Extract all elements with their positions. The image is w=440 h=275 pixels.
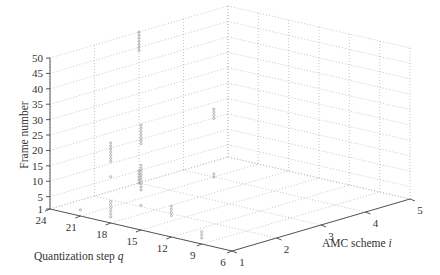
tick-label: 5: [417, 204, 423, 216]
data-point: [213, 117, 215, 119]
data-point: [110, 157, 112, 159]
data-point: [110, 160, 112, 162]
data-point: [213, 173, 215, 175]
data-point: [140, 124, 142, 126]
data-point: [213, 108, 215, 110]
data-point: [140, 189, 142, 191]
tick-label: 2: [284, 243, 290, 255]
data-point: [110, 210, 112, 212]
data-point: [170, 211, 172, 213]
x-axis-label: Quantization step q: [34, 250, 124, 263]
data-point: [201, 231, 203, 233]
data-point: [140, 204, 142, 206]
data-point: [110, 154, 112, 156]
chart-3d-scatter: 1510152025303540455024211815129612345 Fr…: [0, 0, 440, 275]
tick-label: 20: [32, 144, 44, 156]
data-point: [140, 143, 142, 145]
tick-label: 10: [32, 175, 44, 187]
tick-label: 15: [32, 160, 44, 172]
data-point: [110, 142, 112, 144]
data-point: [110, 145, 112, 147]
tick-label: 5: [38, 191, 44, 203]
data-point: [201, 237, 203, 239]
data-point: [110, 213, 112, 215]
tick-label: 21: [66, 221, 77, 233]
data-point: [79, 209, 81, 211]
y-axis-label: AMC scheme i: [322, 237, 392, 249]
data-point: [213, 111, 215, 113]
z-axis-label: Frame number: [18, 101, 30, 169]
data-point: [140, 140, 142, 142]
tick-label: 30: [32, 114, 44, 126]
data-point: [140, 186, 142, 188]
data-point: [110, 151, 112, 153]
data-point: [140, 130, 142, 132]
tick-label: 18: [96, 228, 108, 240]
data-point: [201, 234, 203, 236]
data-point: [213, 114, 215, 116]
data-point: [140, 164, 142, 166]
tick-label: 4: [373, 217, 379, 229]
tick-label: 25: [32, 129, 44, 141]
tick-label: 50: [32, 52, 44, 64]
data-point: [140, 136, 142, 138]
data-point: [110, 203, 112, 205]
tick-label: 15: [127, 235, 139, 247]
data-point: [140, 133, 142, 135]
data-point: [110, 200, 112, 202]
axes: [45, 58, 415, 253]
tick-label: 6: [220, 256, 226, 268]
tick-label: 12: [157, 242, 168, 254]
grid-lines: [50, 6, 410, 251]
data-point: [170, 208, 172, 210]
tick-label: 1: [239, 256, 245, 268]
data-point: [140, 167, 142, 169]
data-point: [110, 176, 112, 178]
data-point: [170, 214, 172, 216]
tick-label: 45: [32, 67, 44, 79]
tick-label: 35: [32, 98, 44, 110]
tick-label: 9: [190, 249, 196, 261]
tick-label: 40: [32, 83, 44, 95]
data-point: [140, 127, 142, 129]
tick-label: 24: [36, 214, 48, 226]
data-point: [110, 216, 112, 218]
